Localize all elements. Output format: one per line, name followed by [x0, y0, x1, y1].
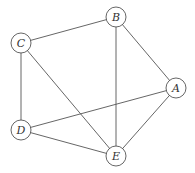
node-c: C: [11, 33, 31, 53]
graph-diagram: ABCDE: [0, 0, 195, 173]
edge-b-a: [116, 17, 176, 88]
node-e: E: [106, 146, 126, 166]
node-label: E: [111, 150, 120, 163]
edge-d-a: [21, 88, 176, 130]
node-a: A: [166, 78, 186, 98]
node-d: D: [11, 120, 31, 140]
edge-a-e: [116, 88, 176, 156]
node-label: D: [16, 124, 26, 137]
node-label: C: [17, 37, 26, 50]
edges-layer: [21, 17, 176, 156]
node-label: A: [171, 82, 180, 95]
nodes-layer: ABCDE: [11, 7, 186, 166]
node-label: B: [111, 11, 120, 24]
edge-c-e: [21, 43, 116, 156]
node-b: B: [106, 7, 126, 27]
edge-d-e: [21, 130, 116, 156]
edge-c-b: [21, 17, 116, 43]
